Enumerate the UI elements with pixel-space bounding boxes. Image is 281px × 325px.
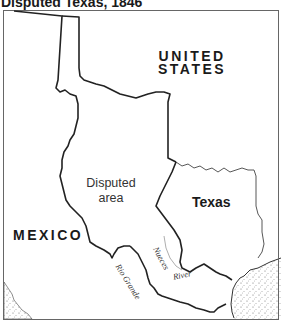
border-panhandle-east [62, 16, 176, 162]
label-mexico: MEXICO [13, 229, 83, 242]
gulf-of-mexico [232, 258, 281, 320]
label-disputed-area: Disputed area [82, 176, 140, 206]
map-frame [4, 11, 279, 320]
red-river [176, 162, 264, 258]
label-states-line: STATES [158, 63, 226, 76]
label-area-line: area [82, 191, 140, 206]
border-panhandle-west [14, 11, 130, 258]
map-canvas [0, 0, 281, 325]
label-texas: Texas [192, 194, 231, 210]
gulf-of-california [4, 282, 32, 319]
label-united-states: UNITED STATES [158, 50, 226, 76]
label-disputed-line: Disputed [82, 176, 140, 191]
